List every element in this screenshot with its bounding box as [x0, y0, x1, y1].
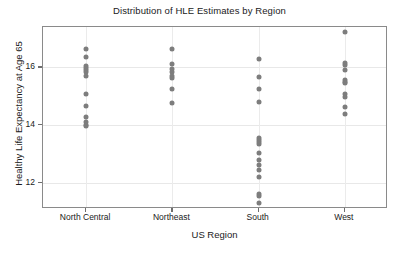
chart-container: Distribution of HLE Estimates by Region … [0, 0, 399, 262]
data-point [84, 123, 89, 128]
data-point [342, 112, 347, 117]
data-point [84, 103, 89, 108]
data-point [256, 87, 261, 92]
x-axis-title: US Region [42, 229, 387, 240]
data-point [256, 200, 261, 205]
x-tick-label: West [334, 212, 353, 222]
data-point [170, 61, 175, 66]
data-point [256, 168, 261, 173]
plot-area [42, 26, 387, 208]
data-point [342, 62, 347, 67]
data-point [342, 30, 347, 35]
x-tick-label: Northeast [153, 212, 190, 222]
data-point [256, 99, 261, 104]
data-point [256, 150, 261, 155]
data-point [84, 46, 89, 51]
data-point [342, 105, 347, 110]
data-point [256, 75, 261, 80]
data-point [170, 101, 175, 106]
data-point [84, 74, 89, 79]
x-tick-label: North Central [60, 212, 111, 222]
data-point [170, 87, 175, 92]
data-point [256, 174, 261, 179]
y-tick-mark [38, 124, 42, 125]
data-point [342, 68, 347, 73]
data-point [170, 47, 175, 52]
data-point [84, 92, 89, 97]
gridline-horizontal [43, 67, 386, 68]
data-point [84, 54, 89, 59]
gridline-vertical [172, 27, 173, 207]
gridline-horizontal [43, 125, 386, 126]
data-point [256, 56, 261, 61]
x-tick-label: South [247, 212, 269, 222]
chart-title: Distribution of HLE Estimates by Region [0, 5, 399, 16]
y-tick-mark [38, 182, 42, 183]
gridline-vertical [259, 27, 260, 207]
y-tick-mark [38, 66, 42, 67]
y-axis-title: Healthy Life Expectancy at Age 65 [13, 24, 24, 204]
data-point [342, 81, 347, 86]
data-point [342, 94, 347, 99]
y-tick-label: 14 [26, 119, 35, 129]
data-point [256, 141, 261, 146]
data-point [170, 76, 175, 81]
y-tick-label: 12 [26, 177, 35, 187]
gridline-vertical [345, 27, 346, 207]
data-point [256, 193, 261, 198]
gridline-horizontal [43, 183, 386, 184]
y-tick-label: 16 [26, 61, 35, 71]
